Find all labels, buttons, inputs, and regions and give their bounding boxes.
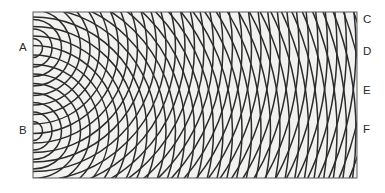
point-label-c: C — [363, 14, 372, 26]
source-label-b: B — [19, 125, 27, 137]
source-label-a: A — [19, 42, 27, 54]
wave-interference-diagram: A B C D E F — [0, 0, 385, 193]
point-label-e: E — [363, 85, 371, 97]
point-label-d: D — [363, 46, 372, 58]
interference-pattern-canvas — [0, 0, 385, 193]
point-label-f: F — [363, 124, 370, 136]
